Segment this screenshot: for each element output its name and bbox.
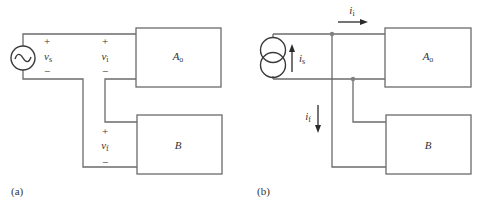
arrow-ii-right-icon — [338, 19, 368, 25]
arrow-if-down-icon — [315, 105, 321, 133]
vs-label: vs — [44, 51, 52, 65]
vs-plus-sign: + — [44, 36, 50, 47]
vi-plus-sign: + — [102, 36, 108, 47]
current-source-icon — [261, 38, 286, 78]
vf-minus-sign: − — [102, 157, 108, 168]
arrow-is-up-icon — [289, 44, 295, 72]
node-dot-top — [330, 32, 334, 36]
vi-label: vi — [101, 51, 108, 65]
block-b-label-b: B — [425, 140, 432, 151]
caption-b: (b) — [257, 185, 270, 197]
vs-minus-sign: − — [44, 66, 50, 77]
voltage-source-icon — [11, 46, 35, 70]
ii-label: ii — [349, 5, 354, 19]
panel-b-wiring — [273, 34, 386, 167]
caption-a: (a) — [11, 185, 23, 197]
vf-label: vf — [101, 140, 109, 154]
vi-minus-sign: − — [102, 66, 108, 77]
vf-plus-sign: + — [102, 126, 108, 137]
is-label: is — [299, 53, 305, 67]
if-label: if — [305, 111, 311, 125]
block-b-label-a: B — [175, 140, 182, 151]
block-ao-label-b: Ao — [423, 51, 434, 65]
node-dot-bottom — [351, 77, 355, 81]
circuit-diagram — [0, 0, 481, 203]
block-ao-label-a: Ao — [173, 51, 184, 65]
panel-a-wiring — [23, 34, 137, 167]
